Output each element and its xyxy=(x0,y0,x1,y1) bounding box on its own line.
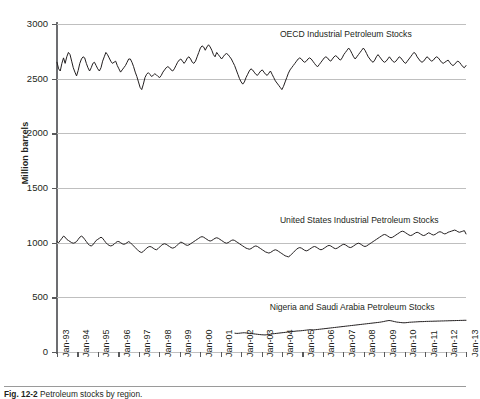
y-axis-tick-mark xyxy=(52,133,57,134)
x-axis-tick-mark xyxy=(425,352,426,357)
x-axis-tick-mark xyxy=(262,352,263,357)
series-labels-layer: OECD Industrial Petroleum StocksUnited S… xyxy=(57,24,466,352)
x-axis-tick-label: Jan-00 xyxy=(204,329,214,357)
x-axis-tick-mark xyxy=(118,352,119,357)
y-axis-tick-mark xyxy=(52,188,57,189)
y-axis-tick-mark xyxy=(52,243,57,244)
x-axis-tick-mark xyxy=(302,352,303,357)
y-axis-tick-label: 500 xyxy=(8,291,48,302)
y-axis-tick-label: 2000 xyxy=(8,127,48,138)
series-label: OECD Industrial Petroleum Stocks xyxy=(280,29,412,39)
y-axis-tick-mark xyxy=(52,79,57,80)
y-axis-tick-label: 3000 xyxy=(8,18,48,29)
x-axis-tick-label: Jan-02 xyxy=(245,329,255,357)
x-axis-tick-label: Jan-96 xyxy=(122,329,132,357)
x-axis-tick-mark xyxy=(180,352,181,357)
y-axis-tick-label: 1500 xyxy=(8,182,48,193)
caption-figure-number: Fig. 12-2 xyxy=(4,389,38,399)
x-axis-tick-mark xyxy=(466,352,467,357)
x-axis-tick-label: Jan-13 xyxy=(470,329,480,357)
y-axis-tick-label: 0 xyxy=(8,346,48,357)
x-axis-tick-mark xyxy=(159,352,160,357)
x-axis-tick-mark xyxy=(323,352,324,357)
x-axis-tick-label: Jan-99 xyxy=(183,329,193,357)
x-axis-tick-mark xyxy=(241,352,242,357)
caption-divider xyxy=(4,386,466,387)
figure-caption: Fig. 12-2 Petroleum stocks by region. xyxy=(4,389,466,399)
x-axis-tick-mark xyxy=(139,352,140,357)
x-axis-tick-label: Jan-05 xyxy=(306,329,316,357)
x-axis-tick-label: Jan-93 xyxy=(61,329,71,357)
y-axis-tick-label: 1000 xyxy=(8,237,48,248)
x-axis-tick-label: Jan-09 xyxy=(388,329,398,357)
y-axis-tick-mark xyxy=(52,24,57,25)
series-label: Nigeria and Saudi Arabia Petroleum Stock… xyxy=(270,302,435,312)
x-axis-tick-mark xyxy=(57,352,58,357)
x-axis-tick-mark xyxy=(343,352,344,357)
x-axis-tick-label: Jan-08 xyxy=(367,329,377,357)
x-axis-tick-label: Jan-94 xyxy=(81,329,91,357)
x-axis-tick-mark xyxy=(446,352,447,357)
x-axis-tick-mark xyxy=(98,352,99,357)
y-axis-tick-label: 2500 xyxy=(8,73,48,84)
x-axis-tick-mark xyxy=(282,352,283,357)
x-axis-tick-label: Jan-95 xyxy=(101,329,111,357)
x-axis-tick-mark xyxy=(364,352,365,357)
x-axis-tick-label: Jan-97 xyxy=(142,329,152,357)
x-axis-tick-mark xyxy=(200,352,201,357)
y-axis-tick-mark xyxy=(52,297,57,298)
x-axis-tick-mark xyxy=(77,352,78,357)
x-axis-tick-label: Jan-10 xyxy=(408,329,418,357)
x-axis-tick-label: Jan-07 xyxy=(347,329,357,357)
caption-text: Petroleum stocks by region. xyxy=(40,389,142,399)
x-axis-tick-mark xyxy=(384,352,385,357)
x-axis-tick-label: Jan-98 xyxy=(163,329,173,357)
x-axis-tick-label: Jan-04 xyxy=(285,329,295,357)
series-label: United States Industrial Petroleum Stock… xyxy=(280,215,439,225)
x-axis-tick-mark xyxy=(405,352,406,357)
x-axis-tick-mark xyxy=(221,352,222,357)
x-axis-tick-label: Jan-03 xyxy=(265,329,275,357)
x-axis-tick-label: Jan-12 xyxy=(449,329,459,357)
x-axis-tick-label: Jan-01 xyxy=(224,329,234,357)
plot-area: OECD Industrial Petroleum StocksUnited S… xyxy=(57,24,466,352)
x-axis-tick-label: Jan-06 xyxy=(326,329,336,357)
x-axis-tick-label: Jan-11 xyxy=(429,330,439,357)
